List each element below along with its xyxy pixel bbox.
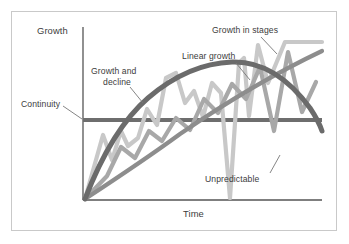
y-axis-title: Growth	[37, 26, 68, 37]
leader-growth-and-decline	[130, 87, 143, 103]
x-axis-title: Time	[183, 209, 204, 220]
label-growth-and-decline-line2: decline	[103, 77, 131, 88]
label-unpredictable: Unpredictable	[205, 174, 259, 185]
label-linear-growth: Linear growth	[182, 51, 235, 62]
chart-canvas	[0, 0, 349, 244]
leader-growth-in-stages	[261, 37, 277, 54]
leader-continuity	[63, 106, 82, 119]
label-growth-in-stages: Growth in stages	[212, 25, 278, 36]
label-continuity: Continuity	[21, 99, 60, 110]
leader-unpredictable	[270, 155, 280, 173]
label-growth-and-decline-line1: Growth and	[91, 66, 136, 77]
